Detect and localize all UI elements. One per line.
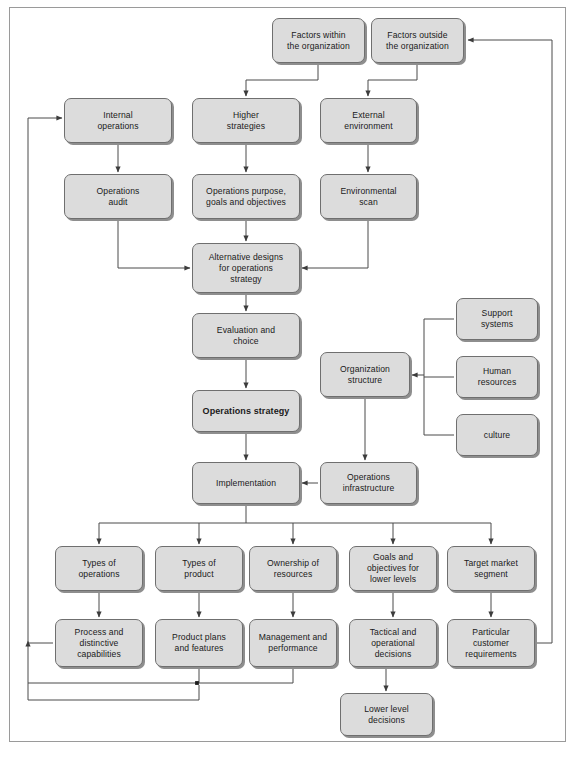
node-external-environment[interactable]: External environment [320, 98, 417, 143]
node-process-capabilities[interactable]: Process and distinctive capabilities [55, 619, 143, 667]
node-operations-audit[interactable]: Operations audit [64, 174, 172, 219]
node-lower-level-decisions[interactable]: Lower level decisions [340, 693, 433, 736]
edge-culture-to-org-structure [424, 375, 454, 435]
node-environmental-scan[interactable]: Environmental scan [320, 174, 417, 219]
node-culture[interactable]: culture [456, 414, 538, 456]
node-ownership-of-resources[interactable]: Ownership of resources [249, 546, 337, 591]
node-higher-strategies[interactable]: Higher strategies [192, 98, 300, 143]
edge-factors-within-to-higher-strategies [246, 63, 318, 96]
edge-env-scan-to-alt-designs [302, 219, 368, 268]
node-types-of-product[interactable]: Types of product [155, 546, 243, 591]
edge-ops-audit-to-alt-designs [118, 219, 190, 268]
node-target-market-segment[interactable]: Target market segment [447, 546, 535, 591]
node-factors-outside[interactable]: Factors outside the organization [371, 18, 464, 63]
edge-factors-outside-to-external-env [368, 63, 417, 96]
node-operations-purpose[interactable]: Operations purpose, goals and objectives [192, 174, 300, 219]
node-goals-lower-levels[interactable]: Goals and objectives for lower levels [349, 546, 437, 591]
node-human-resources[interactable]: Human resources [456, 356, 538, 398]
node-product-plans[interactable]: Product plans and features [155, 619, 243, 667]
node-types-of-operations[interactable]: Types of operations [55, 546, 143, 591]
node-operations-strategy[interactable]: Operations strategy [192, 390, 300, 432]
node-management-performance[interactable]: Management and performance [249, 619, 337, 667]
node-tactical-decisions[interactable]: Tactical and operational decisions [349, 619, 437, 667]
node-evaluation-choice[interactable]: Evaluation and choice [192, 313, 300, 358]
node-alternative-designs[interactable]: Alternative designs for operations strat… [192, 243, 300, 293]
edge-support-systems-to-org-structure [412, 319, 454, 375]
node-organization-structure[interactable]: Organization structure [320, 352, 410, 397]
diagram-canvas: Factors within the organization Factors … [0, 0, 581, 762]
node-operations-infrastructure[interactable]: Operations infrastructure [320, 462, 417, 504]
node-particular-customer-requirements[interactable]: Particular customer requirements [447, 619, 535, 667]
node-factors-within[interactable]: Factors within the organization [272, 18, 365, 63]
node-support-systems[interactable]: Support systems [456, 298, 538, 340]
node-internal-operations[interactable]: Internal operations [64, 98, 172, 143]
node-implementation[interactable]: Implementation [192, 462, 300, 504]
